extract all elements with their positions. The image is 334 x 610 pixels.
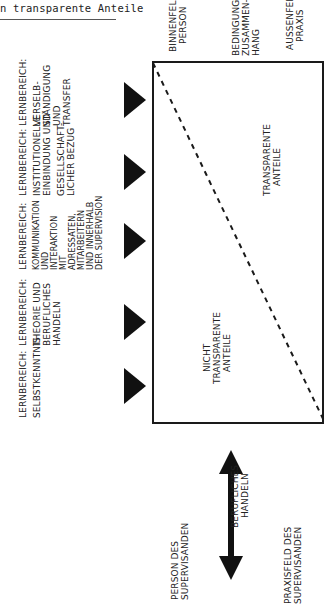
label-anteile-2: Anteile xyxy=(222,312,232,384)
label-nicht: Nicht xyxy=(202,312,212,384)
learning-area-line: der Supervision xyxy=(95,196,104,270)
learning-area-line: mit xyxy=(59,196,68,270)
label-aussenfeld-praxis: Aussenfeld Praxis xyxy=(285,0,305,50)
label-handeln: Handeln xyxy=(240,465,250,528)
learning-area-line: und xyxy=(52,59,62,126)
label-binnenfeld-person: Binnenfeld Person xyxy=(168,0,188,52)
label-berufliches: Berufliches xyxy=(230,465,240,528)
learning-area-verselbstaendigung: Lernbereich: Verselb- ständigung und Tra… xyxy=(18,59,72,126)
learning-area-kommunikation: Lernbereich: Kommunikation und Interakti… xyxy=(18,196,104,270)
caption-underline xyxy=(0,19,116,20)
learning-area-line: Kommunikation xyxy=(32,196,41,270)
label-hang: hang xyxy=(251,0,261,56)
label-transparente: Transparente xyxy=(262,124,272,196)
label-praxisfeld-des-supervisanden: Praxisfeld des Supervisanden xyxy=(283,527,303,604)
learning-area-line: Interaktion xyxy=(50,196,59,270)
label-praxis: Praxis xyxy=(295,0,305,50)
diagram-box xyxy=(152,61,324,424)
learning-area-title: Lernbereich: xyxy=(18,59,28,126)
learning-area-line: Adressaten, xyxy=(68,196,77,270)
pointer-triangle-icon xyxy=(124,304,146,340)
learning-area-line: Verselb- xyxy=(32,59,42,126)
label-supervisanden: Supervisanden xyxy=(180,523,190,600)
learning-area-line: ständigung xyxy=(42,59,52,126)
learning-area-title: Lernbereich: xyxy=(18,279,28,346)
learning-area-title: Lernbereich: xyxy=(18,196,28,270)
label-supervisanden-2: Supervisanden xyxy=(293,527,303,604)
label-aussenfeld: Aussenfeld xyxy=(285,0,295,50)
learning-area-line: und innerhalb xyxy=(86,196,95,270)
label-bedingungszusammenhang: Bedingungs- zusammen- hang xyxy=(231,0,261,56)
learning-area-line: Selbstkenntnis xyxy=(32,337,42,418)
learning-area-line: berufliches xyxy=(42,279,52,346)
caption-fragment: n transparente Anteile xyxy=(0,2,143,14)
label-person-des-supervisanden: Person des Supervisanden xyxy=(170,523,190,600)
learning-area-line: Theorie und xyxy=(32,279,42,346)
label-person-des: Person des xyxy=(170,523,180,600)
learning-area-theorie: Lernbereich: Theorie und berufliches Han… xyxy=(18,279,62,346)
label-nicht-transparente-anteile: Nicht transparente Anteile xyxy=(202,312,232,384)
label-zusammen: zusammen- xyxy=(241,0,251,56)
learning-area-line: Transfer xyxy=(62,59,72,126)
pointer-triangle-icon xyxy=(124,82,146,118)
learning-area-line: Mitarbeitern xyxy=(77,196,86,270)
learning-area-line: und xyxy=(41,196,50,270)
pointer-triangle-icon xyxy=(124,154,146,190)
pointer-triangle-icon xyxy=(124,368,146,404)
label-transparente-2: transparente xyxy=(212,312,222,384)
learning-area-selbstkenntnis: Lernbereich: Selbstkenntnis xyxy=(18,337,42,418)
label-anteile: Anteile xyxy=(272,124,282,196)
pointer-triangle-icon xyxy=(124,223,146,259)
label-transparente-anteile: Transparente Anteile xyxy=(262,124,282,196)
learning-area-title: Lernbereich: xyxy=(18,337,28,418)
label-binnenfeld: Binnenfeld xyxy=(168,0,178,52)
label-praxisfeld-des: Praxisfeld des xyxy=(283,527,293,604)
label-person: Person xyxy=(178,0,188,52)
label-bedingungs: Bedingungs- xyxy=(231,0,241,56)
label-berufliches-handeln: Berufliches Handeln xyxy=(230,465,250,528)
learning-area-line: Handeln xyxy=(52,279,62,346)
